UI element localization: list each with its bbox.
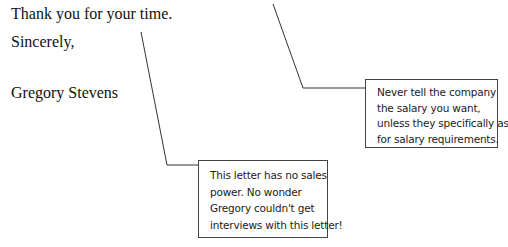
callout-line: the salary you want, <box>377 101 497 117</box>
callout-line: This letter has no sales <box>210 167 327 184</box>
callout-line: Never tell the company <box>377 85 497 101</box>
signature: Gregory Stevens <box>11 84 118 102</box>
callout-line: for salary requirements. <box>377 132 497 148</box>
callout-line: interviews with this letter! <box>210 217 327 234</box>
callout-line: Gregory couldn't get <box>210 200 327 217</box>
callout-line: power. No wonder <box>210 184 327 201</box>
closing-line: Thank you for your time. <box>11 5 172 23</box>
callout-line: unless they specifically ask <box>377 116 497 132</box>
callout-salary-note: Never tell the company the salary you wa… <box>365 79 498 148</box>
signoff: Sincerely, <box>11 33 74 51</box>
callout-sales-power-note: This letter has no sales power. No wonde… <box>198 160 328 238</box>
